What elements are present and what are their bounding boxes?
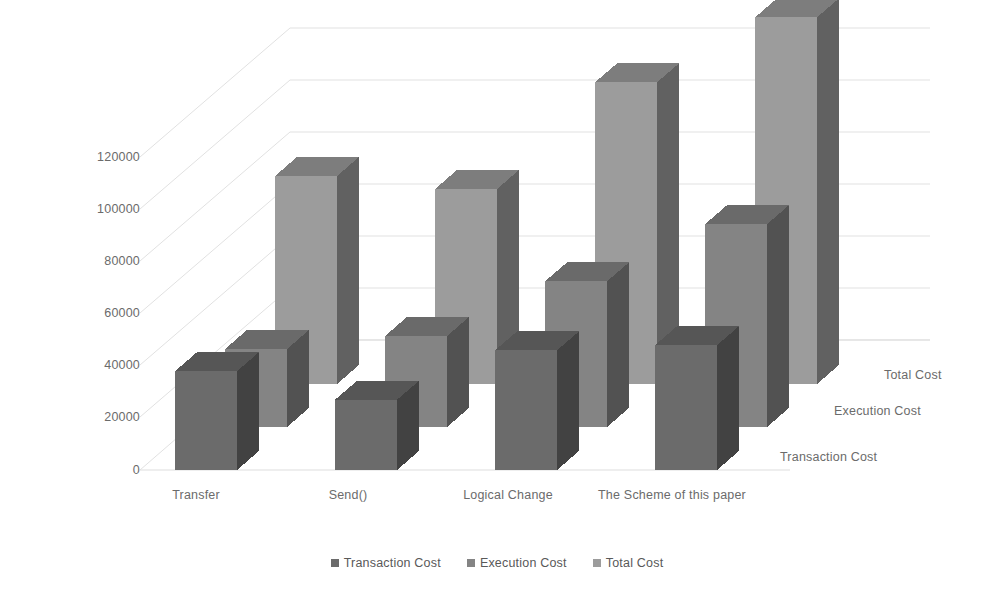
legend-label: Total Cost [606,556,664,570]
z-tick-label: Execution Cost [834,404,921,418]
series-axis: Total Cost Execution Cost Transaction Co… [0,0,994,592]
legend: Transaction Cost Execution Cost Total Co… [0,556,994,570]
legend-label: Execution Cost [480,556,567,570]
legend-item[interactable]: Total Cost [593,556,664,570]
legend-swatch-icon [467,559,475,567]
legend-swatch-icon [331,559,339,567]
z-tick-label: Transaction Cost [780,450,877,464]
z-tick-label: Total Cost [884,368,942,382]
legend-label: Transaction Cost [344,556,441,570]
legend-item[interactable]: Execution Cost [467,556,567,570]
chart-container: 120000 100000 80000 60000 40000 20000 0 … [0,0,994,592]
legend-item[interactable]: Transaction Cost [331,556,441,570]
legend-swatch-icon [593,559,601,567]
